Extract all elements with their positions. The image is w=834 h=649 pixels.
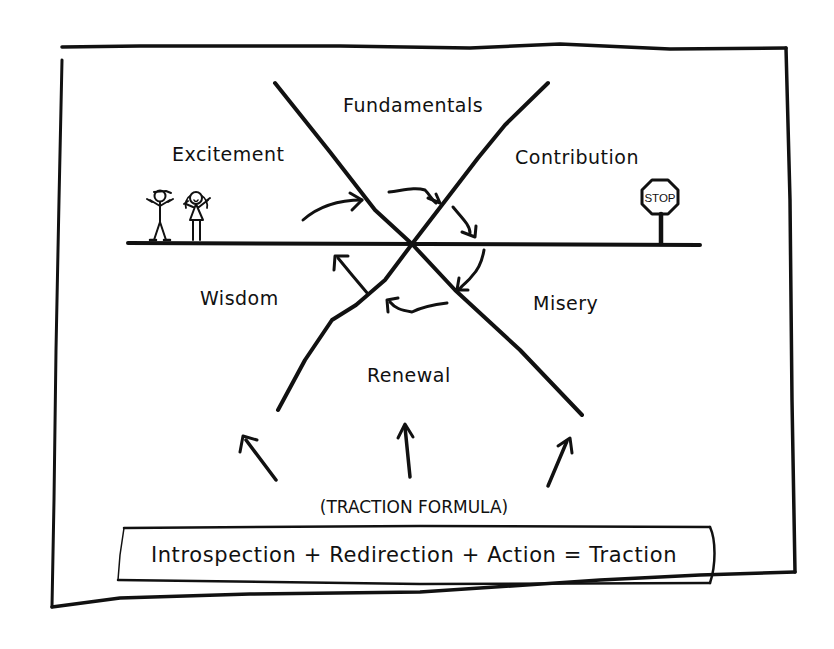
arrow-renewal-to-wisdom-icon — [387, 298, 447, 312]
arrow-wisdom-to-excitement-icon — [334, 256, 368, 294]
formula-text: Introspection + Redirection + Action = T… — [151, 543, 677, 567]
arrow-up-right-icon — [548, 438, 572, 486]
label-contribution: Contribution — [515, 146, 639, 168]
formula-box: Introspection + Redirection + Action = T… — [118, 526, 715, 584]
arrow-fundamentals-to-contribution-icon — [389, 189, 440, 203]
label-fundamentals: Fundamentals — [343, 94, 483, 116]
label-excitement: Excitement — [172, 143, 284, 165]
arrow-contribution-to-misery-icon — [453, 207, 476, 237]
stop-sign-label: STOP — [644, 192, 675, 204]
outer-frame — [52, 44, 795, 607]
formula-caption: (TRACTION FORMULA) — [320, 497, 508, 517]
stop-sign-icon: STOP — [642, 180, 678, 243]
label-renewal: Renewal — [367, 364, 451, 386]
arrow-misery-to-renewal-icon — [457, 250, 484, 290]
arrow-up-left-icon — [240, 436, 276, 480]
label-wisdom: Wisdom — [200, 287, 279, 309]
arrow-excitement-to-fundamentals-icon — [303, 193, 362, 220]
formula-arrows — [240, 424, 572, 486]
stick-figure-boy-icon — [147, 191, 173, 241]
arrow-up-center-icon — [398, 424, 413, 477]
traction-cycle-diagram: Fundamentals Contribution Misery Renewal… — [0, 0, 834, 649]
stick-figure-girl-icon — [184, 192, 210, 240]
label-misery: Misery — [533, 292, 598, 314]
